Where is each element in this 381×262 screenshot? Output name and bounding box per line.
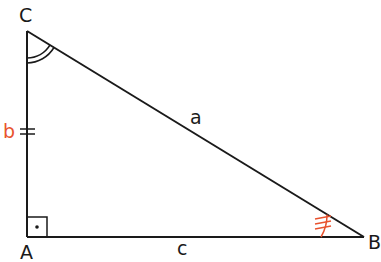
triangle-diagram: C A B a b c: [0, 0, 381, 262]
vertex-label-c: C: [19, 4, 32, 26]
angle-b-arc-ticks: [315, 215, 331, 238]
right-angle-marker: [27, 217, 47, 237]
vertex-label-b: B: [368, 231, 381, 253]
side-label-c: c: [177, 237, 187, 259]
side-label-a: a: [190, 106, 202, 128]
side-label-b: b: [3, 120, 15, 142]
side-a-line: [27, 31, 364, 237]
vertex-label-a: A: [20, 241, 33, 262]
angle-c-double-arc: [27, 45, 54, 63]
